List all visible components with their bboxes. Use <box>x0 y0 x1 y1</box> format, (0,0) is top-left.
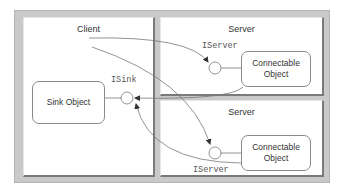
call-arrow-bottom <box>92 47 210 144</box>
iserver-lollipop-top-icon <box>209 62 221 74</box>
callback-arrow-top <box>135 87 243 98</box>
call-arrow-top <box>89 38 208 62</box>
iserver-lollipop-bottom-icon <box>209 147 221 159</box>
callback-arrow-bottom <box>136 104 241 163</box>
connector-overlay <box>0 0 344 193</box>
isink-lollipop-icon <box>121 92 133 104</box>
